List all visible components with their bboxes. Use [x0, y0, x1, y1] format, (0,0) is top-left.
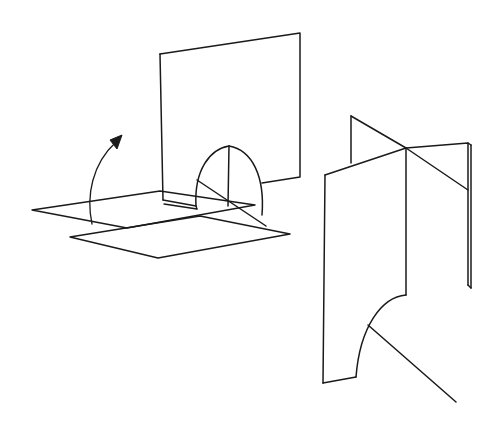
rotation-arrow-shaft: [90, 142, 116, 224]
left-panel: [32, 33, 300, 258]
line-drawing: [0, 0, 493, 436]
back-plane: [406, 143, 468, 285]
front-plane-bottom-edge: [323, 377, 356, 383]
vertical-plane: [160, 33, 300, 183]
vertical-plane-left-edge: [160, 54, 163, 200]
crossing-slant-edge: [406, 148, 468, 190]
arch-diagonal-fold: [197, 180, 266, 226]
arch-apex-rib: [228, 146, 229, 206]
front-plane-left-edge: [323, 175, 325, 383]
fin-base-line: [325, 148, 406, 175]
figure-canvas: [0, 0, 493, 436]
upper-left-fin: [351, 116, 406, 148]
diagonal-edge: [368, 325, 456, 402]
right-panel: [323, 116, 471, 402]
base-plane-near: [70, 216, 290, 258]
